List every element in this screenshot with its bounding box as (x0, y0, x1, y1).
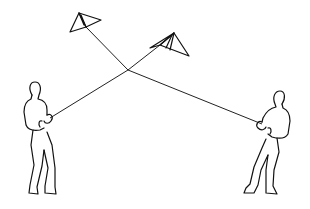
left-kite-icon (70, 13, 101, 32)
string-left-kite (86, 27, 262, 124)
right-kite-icon (150, 33, 189, 56)
right-person-icon (244, 91, 290, 194)
left-person-icon (24, 82, 56, 194)
kite-drawing (0, 0, 310, 209)
string-right-kite (50, 45, 160, 118)
